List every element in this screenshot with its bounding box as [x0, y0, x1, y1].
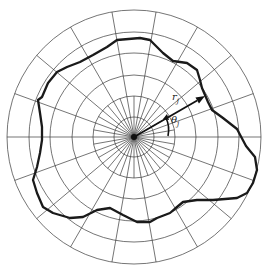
radius-label: rj [172, 92, 179, 105]
polar-diagram [0, 0, 268, 271]
grid-ray [134, 137, 231, 219]
origin-point [131, 134, 137, 140]
angle-label: θj [171, 115, 179, 128]
grid-ray [37, 55, 134, 137]
radius-label-sub: j [177, 97, 179, 105]
angle-label-sub: j [177, 120, 179, 128]
grid-ray [37, 137, 134, 219]
grid-ray [134, 55, 231, 137]
angle-arc-icon [166, 118, 169, 136]
